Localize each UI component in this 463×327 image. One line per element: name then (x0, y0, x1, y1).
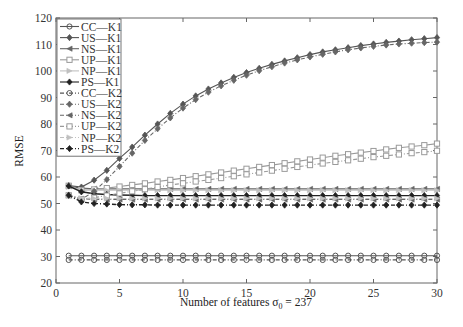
series-us-k2 (66, 39, 440, 203)
y-tick-label: 80 (41, 118, 53, 130)
y-tick-label: 60 (41, 171, 53, 183)
x-tick-label: 5 (117, 287, 123, 299)
series-cc-k2 (66, 257, 440, 262)
series-layer (66, 35, 440, 263)
x-tick-label: 30 (431, 287, 443, 299)
y-tick-label: 70 (41, 145, 53, 157)
y-axis-label: RMSE (13, 135, 25, 166)
y-tick-label: 110 (35, 39, 52, 51)
x-tick-label: 0 (53, 287, 59, 299)
y-tick-label: 120 (35, 12, 53, 24)
legend-label: PS—K2 (81, 143, 120, 155)
x-tick-label: 25 (368, 287, 380, 299)
y-tick-label: 50 (41, 198, 53, 210)
x-axis-label: Number of features σ0 = 237 (180, 296, 312, 311)
y-tick-label: 40 (41, 224, 53, 236)
y-tick-label: 30 (41, 251, 53, 263)
legend: CC—K1US—K1NS—K1UP—K1NP—K1PS—K1CC—K2US—K2… (57, 19, 122, 156)
y-tick-label: 100 (35, 65, 53, 77)
rmse-line-chart: 0510152025302030405060708090100110120 CC… (0, 0, 463, 327)
y-tick-label: 90 (41, 92, 53, 104)
y-tick-label: 20 (41, 277, 53, 289)
series-cc-k1 (66, 253, 440, 258)
